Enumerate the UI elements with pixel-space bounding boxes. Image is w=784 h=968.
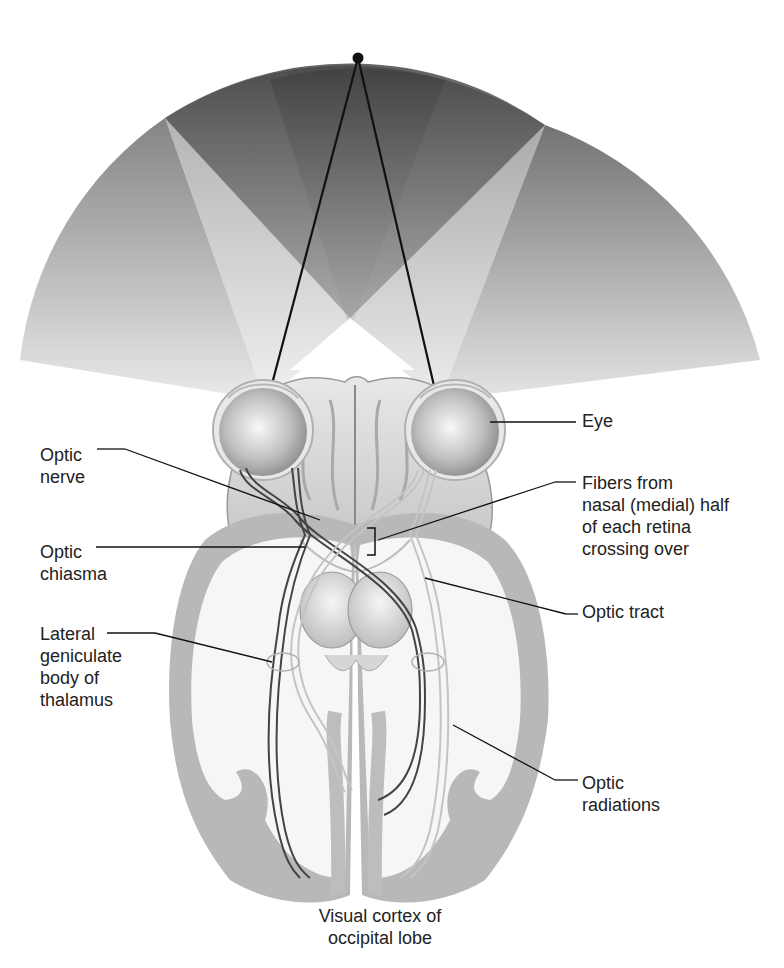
label-fibers-crossing: Fibers from nasal (medial) half of each … [582,472,729,560]
label-optic-radiations: Optic radiations [582,772,660,816]
label-optic-nerve: Optic nerve [40,444,85,488]
visual-pathway-diagram: Optic nerve Optic chiasma Lateral genicu… [0,0,784,968]
right-eye [405,380,505,480]
label-lateral-geniculate-body: Lateral geniculate body of thalamus [40,623,122,711]
label-optic-chiasma: Optic chiasma [40,541,107,585]
left-eye [213,380,313,480]
label-visual-cortex: Visual cortex of occipital lobe [290,905,470,949]
fixation-point [353,53,364,64]
label-eye: Eye [582,410,613,432]
label-optic-tract: Optic tract [582,601,664,623]
visual-field-fan [20,63,760,400]
